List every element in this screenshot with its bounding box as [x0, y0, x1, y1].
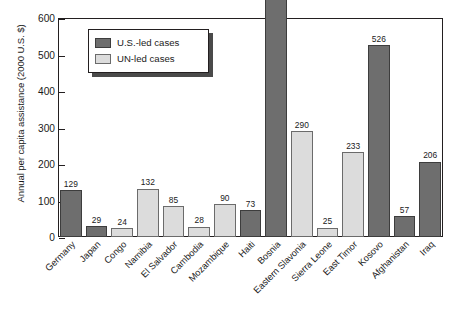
bar-group: 90	[212, 18, 238, 237]
bar[interactable]	[419, 162, 441, 237]
bar-value-label: 90	[220, 194, 229, 202]
bar-value-label: 28	[194, 216, 203, 224]
x-axis-category-label: Iraq	[419, 240, 437, 258]
bar[interactable]	[137, 189, 159, 237]
bar-value-label: 57	[400, 206, 409, 214]
bar-group: 233	[340, 18, 366, 237]
x-axis-label-slot: Congo	[109, 237, 135, 312]
y-axis-tick-label: 0	[49, 233, 55, 243]
bar-value-label: 206	[423, 151, 437, 159]
bar-value-label: 233	[346, 142, 360, 150]
y-axis-tick-label: 200	[38, 160, 55, 170]
bar-value-label: 132	[141, 178, 155, 186]
bar[interactable]	[188, 227, 210, 237]
bar[interactable]	[86, 226, 108, 237]
x-axis-label-slot: Japan	[84, 237, 110, 312]
bar-value-label: 29	[92, 216, 101, 224]
bar[interactable]	[291, 131, 313, 237]
bar[interactable]	[265, 0, 287, 237]
bar-value-label: 129	[64, 180, 78, 188]
bar[interactable]	[163, 206, 185, 237]
bar[interactable]	[317, 228, 339, 237]
bar-value-label: 526	[372, 35, 386, 43]
x-axis-label-slot: Germany	[58, 237, 84, 312]
bar-group: 73	[238, 18, 264, 237]
y-axis-tick-label: 400	[38, 87, 55, 97]
bar-value-label: 24	[117, 218, 126, 226]
bar[interactable]	[394, 216, 416, 237]
x-axis-label-slot: Iraq	[417, 237, 443, 312]
legend-swatch-icon	[95, 38, 111, 48]
legend-item[interactable]: U.S.-led cases	[95, 35, 202, 51]
bar-value-label: 290	[295, 121, 309, 129]
bar-group: 679	[263, 18, 289, 237]
bar-group: 129	[58, 18, 84, 237]
chart-legend: U.S.-led casesUN-led cases	[88, 29, 209, 73]
bar-group: 290	[289, 18, 315, 237]
bar-group: 206	[417, 18, 443, 237]
legend-item[interactable]: UN-led cases	[95, 51, 202, 67]
bar[interactable]	[240, 210, 262, 237]
x-axis-label-slot: Haiti	[238, 237, 264, 312]
x-axis-category-label: Germany	[44, 240, 77, 273]
bar[interactable]	[368, 45, 390, 237]
legend-item-label: U.S.-led cases	[117, 38, 179, 48]
bar-value-label: 25	[323, 217, 332, 225]
legend-swatch-icon	[95, 54, 111, 64]
y-axis-tick-label: 600	[38, 14, 55, 24]
bar-value-label: 85	[169, 196, 178, 204]
bar-chart: Annual per capita assistance (2000 U.S. …	[0, 0, 451, 312]
y-axis-title: Annual per capita assistance (2000 U.S. …	[15, 14, 26, 214]
y-axis-tick-label: 500	[38, 50, 55, 60]
y-axis-tick-label: 100	[38, 196, 55, 206]
bar-value-label: 73	[246, 200, 255, 208]
x-axis-labels: GermanyJapanCongoNamibiaEl SalvadorCambo…	[58, 237, 443, 312]
bar-group: 25	[315, 18, 341, 237]
bar-group: 57	[392, 18, 418, 237]
x-axis-label-slot: Mozambique	[212, 237, 238, 312]
x-axis-label-slot: East Timor	[340, 237, 366, 312]
legend-item-label: UN-led cases	[117, 54, 175, 64]
bar[interactable]	[342, 152, 364, 237]
bar[interactable]	[111, 228, 133, 237]
y-axis-tick-label: 300	[38, 123, 55, 133]
bar[interactable]	[214, 204, 236, 237]
bar-group: 526	[366, 18, 392, 237]
x-axis-label-slot: Afghanistan	[392, 237, 418, 312]
x-axis-category-label: Haiti	[238, 240, 258, 260]
bar[interactable]	[60, 190, 82, 237]
